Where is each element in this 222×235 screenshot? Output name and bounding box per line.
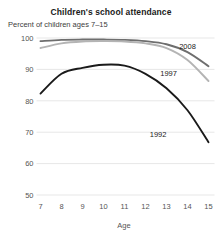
y-axis-tick-label: 50	[25, 191, 33, 200]
series-label-1997: 1997	[160, 69, 177, 78]
data-series	[41, 40, 209, 143]
y-axis-tick-label: 80	[25, 97, 33, 106]
x-axis-tick-label: 15	[204, 202, 212, 211]
series-labels: 200819971992	[150, 42, 196, 139]
y-axis-tick-labels: 1009080706050	[21, 34, 34, 200]
x-axis-title: Age	[117, 221, 130, 230]
x-axis-tick-label: 7	[38, 202, 42, 211]
series-label-2008: 2008	[179, 42, 196, 51]
x-axis-tick-label: 11	[121, 202, 129, 211]
x-axis-tick-label: 9	[80, 202, 84, 211]
series-line-1992	[41, 64, 209, 142]
x-axis-tick-label: 10	[99, 202, 107, 211]
chart-container: Children's school attendance Percent of …	[0, 0, 222, 235]
x-axis-tick-labels: 789101112131415	[38, 202, 212, 211]
x-axis-tick-label: 8	[59, 202, 63, 211]
x-axis-tick-label: 12	[141, 202, 149, 211]
x-axis-tick-label: 13	[162, 202, 170, 211]
y-axis-tick-label: 90	[25, 65, 33, 74]
y-axis-tick-label: 60	[25, 159, 33, 168]
gridlines	[37, 38, 215, 195]
series-label-1992: 1992	[150, 130, 167, 139]
y-axis-tick-label: 70	[25, 128, 33, 137]
chart-plot-area: 1009080706050 789101112131415 2008199719…	[0, 0, 222, 235]
y-axis-tick-label: 100	[21, 34, 34, 43]
x-axis-tick-label: 14	[183, 202, 191, 211]
